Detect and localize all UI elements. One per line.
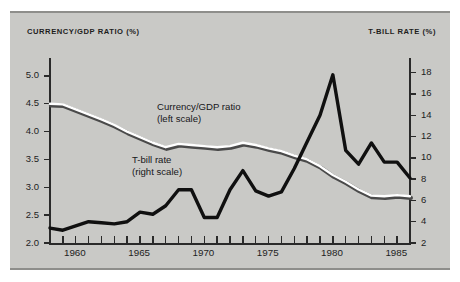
right-tick-label: 14 [421,109,432,120]
right-axis-title: T-BILL RATE (%) [368,27,436,36]
right-tick-label: 12 [421,130,432,141]
left-tick-label: 2.5 [26,209,39,220]
right-tick [410,72,416,73]
x-tick-label: 1965 [128,247,150,258]
tbill-rate-annotation: T-bill rate (right scale) [132,154,182,177]
chart-figure: CURRENCY/GDP RATIO (%) T-BILL RATE (%) 2… [0,0,460,282]
right-tick-label: 16 [421,87,432,98]
x-axis-line [49,243,411,245]
left-tick-label: 4.5 [26,97,39,108]
x-tick-label: 1980 [321,247,343,258]
tbill-rate-line [50,75,410,230]
currency-gdp-annotation-line2: (left scale) [157,113,241,125]
right-tick [410,221,416,222]
plot-area [50,62,410,243]
panel-bottom-rule [10,268,450,270]
left-tick-label: 3.5 [26,153,39,164]
right-tick-label: 6 [421,194,426,205]
right-tick-label: 4 [421,215,426,226]
right-tick-label: 2 [421,237,426,248]
x-tick-label: 1985 [385,247,407,258]
left-tick-label: 4.0 [26,125,39,136]
left-tick-label: 5.0 [26,69,39,80]
right-tick [410,115,416,116]
x-tick-label: 1960 [64,247,86,258]
x-tick-label: 1975 [257,247,279,258]
right-tick [410,93,416,94]
right-tick [410,242,416,243]
currency-gdp-annotation: Currency/GDP ratio (left scale) [157,101,241,124]
left-axis-title: CURRENCY/GDP RATIO (%) [27,27,140,36]
currency-gdp-annotation-line1: Currency/GDP ratio [157,101,241,113]
tbill-rate-annotation-line1: T-bill rate [132,154,182,166]
x-tick-label: 1970 [193,247,215,258]
right-tick-label: 18 [421,66,432,77]
left-tick-label: 2.0 [26,237,39,248]
right-tick [410,136,416,137]
left-tick-label: 3.0 [26,181,39,192]
right-tick-label: 8 [421,173,426,184]
right-tick [410,157,416,158]
right-tick-label: 10 [421,151,432,162]
tbill-rate-annotation-line2: (right scale) [132,166,182,178]
